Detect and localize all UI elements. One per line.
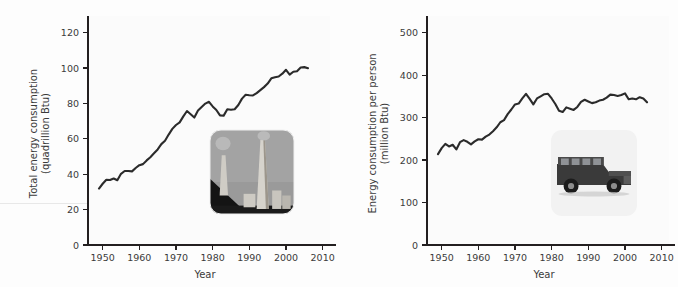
y-axis-tick-label: 300 xyxy=(400,112,418,123)
y-axis-tick-label: 0 xyxy=(73,240,79,251)
chart-panel-energy-consumption-per-person: 0100200300400500195019601970198019902000… xyxy=(339,0,678,287)
total-energy-consumption-chart: 0204060801001201950196019701980199020002… xyxy=(0,0,339,287)
y-axis-tick-label: 0 xyxy=(412,240,418,251)
plot-area-background xyxy=(88,16,330,245)
inset-hummer-suv-photo xyxy=(551,130,637,216)
x-axis-tick-label: 2000 xyxy=(274,252,298,263)
x-axis-tick-label: 1980 xyxy=(540,252,564,263)
y-axis-tick-label: 100 xyxy=(61,63,79,74)
x-axis-tick-label: 1950 xyxy=(91,252,115,263)
y-axis-tick-label: 200 xyxy=(400,155,418,166)
x-axis-title: Year xyxy=(193,269,216,280)
y-axis-title-line1: Energy consumption per person xyxy=(367,53,378,213)
y-axis-title-line2: (quadrillion Btu) xyxy=(40,93,51,174)
y-axis-title: Energy consumption per person(million Bt… xyxy=(367,53,390,213)
y-axis-tick-label: 100 xyxy=(400,197,418,208)
y-axis-tick-label: 400 xyxy=(400,70,418,81)
y-axis-tick-label: 80 xyxy=(67,98,79,109)
y-axis-tick-label: 20 xyxy=(67,204,79,215)
x-axis-tick-label: 1990 xyxy=(576,252,600,263)
x-axis-tick-label: 1950 xyxy=(430,252,454,263)
y-axis-title: Total energy consumption(quadrillion Btu… xyxy=(28,69,51,199)
x-axis-tick-label: 1990 xyxy=(237,252,261,263)
x-axis-tick-label: 1980 xyxy=(201,252,225,263)
x-axis-tick-label: 1960 xyxy=(127,252,151,263)
x-axis-tick-label: 2010 xyxy=(650,252,674,263)
y-axis-tick-label: 120 xyxy=(61,27,79,38)
y-axis-tick-label: 500 xyxy=(400,27,418,38)
y-axis-title-line2: (million Btu) xyxy=(379,103,390,165)
x-axis-tick-label: 2010 xyxy=(311,252,335,263)
chart-panel-total-energy-consumption: 0204060801001201950196019701980199020002… xyxy=(0,0,339,287)
energy-consumption-per-person-chart: 0100200300400500195019601970198019902000… xyxy=(339,0,678,287)
y-axis-tick-label: 40 xyxy=(67,169,79,180)
y-axis-tick-label: 60 xyxy=(67,133,79,144)
x-axis-title: Year xyxy=(532,269,555,280)
inset-power-plant-smokestacks-photo xyxy=(210,130,294,214)
x-axis-tick-label: 1970 xyxy=(164,252,188,263)
y-axis-title-line1: Total energy consumption xyxy=(28,69,39,199)
x-axis-tick-label: 1960 xyxy=(466,252,490,263)
figure-two-panel-energy-charts: 0204060801001201950196019701980199020002… xyxy=(0,0,678,287)
x-axis-tick-label: 1970 xyxy=(503,252,527,263)
x-axis-tick-label: 2000 xyxy=(613,252,637,263)
